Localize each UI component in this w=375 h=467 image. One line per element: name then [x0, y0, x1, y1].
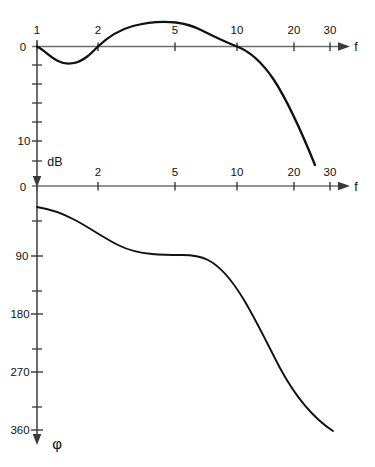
magnitude-ytick-label-10: 10: [18, 135, 31, 147]
magnitude-xtick-label-2: 2: [95, 24, 101, 36]
magnitude-xtick-label-20: 20: [288, 24, 301, 36]
magnitude-xtick-label-30: 30: [324, 24, 337, 36]
phase-xtick-label-20: 20: [288, 166, 301, 178]
magnitude-xtick-label-5: 5: [172, 24, 178, 36]
bode-plot-figure: 1 2 5 10 20 30 f 0 10 dB: [0, 0, 375, 467]
magnitude-y-unit-label: dB: [47, 155, 62, 169]
phase-xtick-label-2: 2: [95, 166, 101, 178]
phase-y-axis-symbol: φ: [52, 435, 62, 452]
phase-curve: [37, 207, 333, 431]
magnitude-origin-label: 0: [20, 41, 26, 53]
magnitude-xtick-label-1: 1: [34, 24, 40, 36]
phase-origin-label: 0: [20, 181, 26, 193]
bode-plot-svg: 1 2 5 10 20 30 f 0 10 dB: [0, 0, 375, 467]
phase-x-axis-arrowhead: [338, 182, 350, 191]
magnitude-x-axis-label: f: [354, 40, 358, 54]
phase-ytick-label-180: 180: [10, 308, 29, 320]
phase-ytick-label-360: 360: [10, 424, 29, 436]
phase-ytick-label-90: 90: [16, 250, 29, 262]
phase-panel: 2 5 10 20 30 f 0 90 180 270 36: [10, 166, 358, 452]
phase-xtick-label-30: 30: [324, 166, 337, 178]
phase-xtick-label-10: 10: [231, 166, 244, 178]
phase-y-axis-arrowhead: [33, 434, 42, 445]
magnitude-curve: [37, 22, 315, 165]
magnitude-xtick-label-10: 10: [231, 24, 244, 36]
phase-xtick-label-5: 5: [172, 166, 178, 178]
magnitude-panel: 1 2 5 10 20 30 f 0 10 dB: [18, 22, 359, 187]
phase-x-axis-label: f: [354, 180, 358, 194]
phase-ytick-label-270: 270: [10, 366, 29, 378]
magnitude-x-axis-arrowhead: [338, 42, 350, 51]
